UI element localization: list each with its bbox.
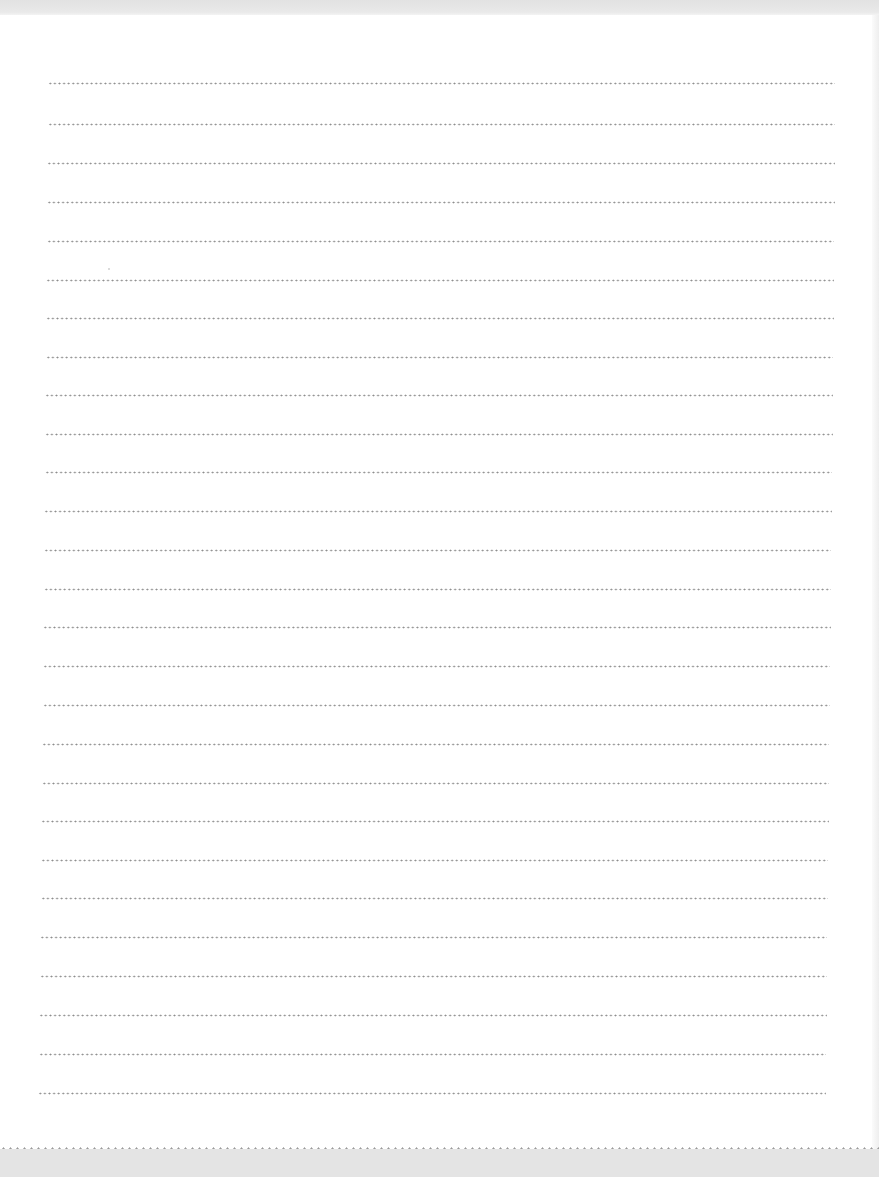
dotted-writing-line xyxy=(45,394,833,397)
dotted-writing-line xyxy=(48,123,835,126)
dotted-writing-line xyxy=(41,820,829,823)
dotted-writing-line xyxy=(44,549,831,552)
dotted-writing-line xyxy=(48,82,835,85)
dotted-writing-line xyxy=(41,859,828,862)
dotted-writing-line xyxy=(45,471,832,474)
dotted-writing-line xyxy=(42,782,829,785)
dotted-writing-line xyxy=(46,317,834,320)
dotted-writing-line xyxy=(40,975,827,978)
dotted-writing-page xyxy=(0,15,872,1149)
dotted-writing-line xyxy=(39,1053,826,1056)
dotted-writing-line xyxy=(44,510,832,513)
dotted-writing-line xyxy=(43,704,830,707)
dotted-writing-line xyxy=(40,936,827,939)
dotted-writing-line xyxy=(39,1014,827,1017)
dotted-writing-line xyxy=(44,588,831,591)
dotted-writing-line xyxy=(38,1092,826,1095)
paper-speck xyxy=(108,268,110,270)
dotted-writing-line xyxy=(42,743,829,746)
dotted-writing-line xyxy=(47,201,835,204)
dotted-writing-line xyxy=(46,279,834,282)
dotted-writing-line xyxy=(43,665,830,668)
scan-top-border xyxy=(0,0,879,15)
dotted-writing-line xyxy=(45,433,833,436)
dotted-writing-line xyxy=(46,356,833,359)
dotted-writing-line xyxy=(41,897,828,900)
dotted-writing-line xyxy=(47,240,834,243)
scan-right-border xyxy=(872,15,879,1149)
scan-bottom-border xyxy=(0,1149,879,1177)
dotted-writing-line xyxy=(47,162,835,165)
dotted-writing-line xyxy=(43,626,831,629)
